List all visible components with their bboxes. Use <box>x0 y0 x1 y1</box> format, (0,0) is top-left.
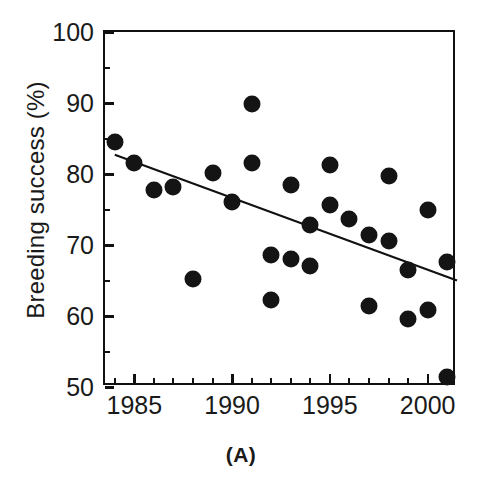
x-axis-tick-minor <box>388 378 390 383</box>
y-axis-tick-minor <box>105 67 110 69</box>
y-axis-tick-minor <box>105 209 110 211</box>
x-axis-tick-major <box>133 374 136 383</box>
data-point <box>400 261 417 278</box>
x-axis-tick-major <box>427 374 430 383</box>
data-point <box>282 176 299 193</box>
y-axis-tick-label: 70 <box>66 233 94 258</box>
x-axis-tick-minor <box>153 378 155 383</box>
x-axis-tick-minor <box>192 378 194 383</box>
data-point <box>282 251 299 268</box>
data-point <box>165 178 182 195</box>
y-axis-tick-major <box>105 173 114 176</box>
plot-inner: 50607080901001985199019952000 <box>105 32 453 383</box>
x-axis-tick-minor <box>407 378 409 383</box>
x-axis-tick-minor <box>270 378 272 383</box>
data-point <box>204 164 221 181</box>
data-point <box>439 369 456 386</box>
data-point <box>302 258 319 275</box>
data-point <box>400 310 417 327</box>
y-axis-tick-label: 60 <box>66 304 94 329</box>
y-axis-tick-label: 80 <box>66 162 94 187</box>
data-point <box>361 227 378 244</box>
x-axis-tick-minor <box>290 378 292 383</box>
x-axis-tick-minor <box>114 378 116 383</box>
x-axis-tick-minor <box>309 378 311 383</box>
data-point <box>185 271 202 288</box>
x-axis-tick-label: 1995 <box>302 393 358 418</box>
y-axis-tick-minor <box>105 280 110 282</box>
data-point <box>145 182 162 199</box>
data-point <box>439 254 456 271</box>
data-point <box>243 96 260 113</box>
trendline <box>105 32 457 387</box>
data-point <box>321 197 338 214</box>
x-axis-tick-label: 2000 <box>400 393 456 418</box>
y-axis-tick-major <box>105 102 114 105</box>
data-point <box>361 298 378 315</box>
x-axis-tick-major <box>329 374 332 383</box>
y-axis-tick-minor <box>105 351 110 353</box>
plot-area: 50607080901001985199019952000 <box>103 30 455 385</box>
data-point <box>419 301 436 318</box>
x-axis-tick-minor <box>212 378 214 383</box>
data-point <box>341 210 358 227</box>
x-axis-tick-minor <box>251 378 253 383</box>
y-axis-tick-label: 50 <box>66 375 94 400</box>
x-axis-tick-label: 1985 <box>107 393 163 418</box>
data-point <box>380 232 397 249</box>
y-axis-tick-major <box>105 386 114 389</box>
x-axis-tick-minor <box>368 378 370 383</box>
data-point <box>224 193 241 210</box>
x-axis-tick-label: 1990 <box>204 393 260 418</box>
y-axis-tick-major <box>105 31 114 34</box>
data-point <box>243 154 260 171</box>
data-point <box>321 156 338 173</box>
x-axis-tick-minor <box>172 378 174 383</box>
y-axis-tick-major <box>105 315 114 318</box>
y-axis-tick-major <box>105 244 114 247</box>
panel-label: (A) <box>0 443 482 467</box>
data-point <box>302 217 319 234</box>
data-point <box>126 155 143 172</box>
data-point <box>106 134 123 151</box>
data-point <box>380 168 397 185</box>
y-axis-tick-label: 100 <box>52 20 94 45</box>
y-axis-title: Breeding success (%) <box>14 0 58 400</box>
data-point <box>419 202 436 219</box>
x-axis-tick-minor <box>348 378 350 383</box>
x-axis-tick-major <box>231 374 234 383</box>
data-point <box>263 246 280 263</box>
data-point <box>263 292 280 309</box>
figure-panel-a: Breeding success (%) 5060708090100198519… <box>0 0 482 491</box>
y-axis-tick-label: 90 <box>66 91 94 116</box>
